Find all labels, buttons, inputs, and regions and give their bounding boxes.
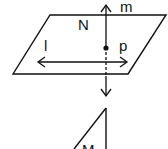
point-p <box>103 45 108 50</box>
geometry-diagram: N m l p M <box>0 0 168 149</box>
plane-n <box>13 15 166 74</box>
label-line-m: m <box>120 0 133 15</box>
label-plane-n: N <box>78 16 89 33</box>
diagram-svg: N m l p M <box>0 0 168 149</box>
label-plane-m: M <box>82 141 95 149</box>
label-point-p: p <box>119 37 127 54</box>
label-line-l: l <box>44 37 47 54</box>
